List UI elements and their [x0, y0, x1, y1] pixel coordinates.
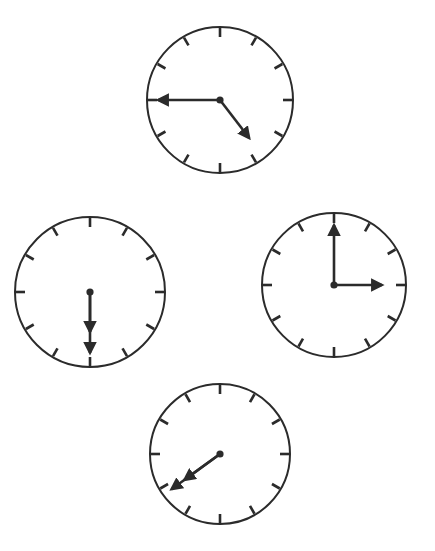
center-hub	[216, 96, 223, 103]
clock-figure	[0, 0, 435, 551]
center-hub	[330, 281, 337, 288]
center-hub	[86, 288, 93, 295]
clock-top	[147, 27, 293, 173]
clock-canvas	[0, 0, 435, 551]
clock-bottom	[150, 384, 290, 524]
center-hub	[216, 450, 223, 457]
clock-left	[15, 217, 165, 367]
clock-right	[262, 213, 406, 357]
clock-group	[15, 27, 406, 524]
